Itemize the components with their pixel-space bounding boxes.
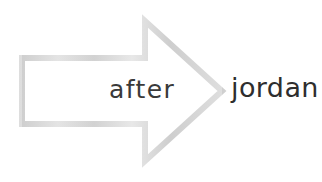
image-canvas: after jordan	[0, 0, 322, 182]
text-after: after	[109, 77, 175, 102]
text-jordan: jordan	[231, 74, 319, 101]
